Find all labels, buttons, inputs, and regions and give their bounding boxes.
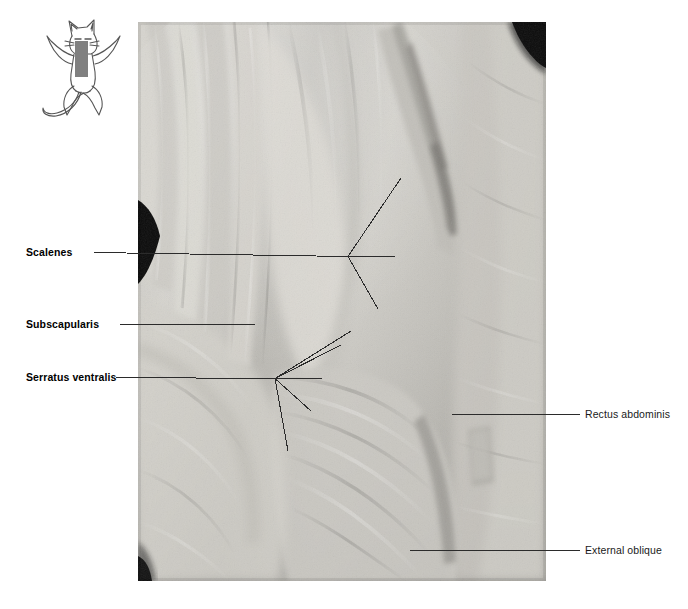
cat-body-diagram-icon <box>34 12 130 120</box>
cat-outline-svg <box>34 12 130 120</box>
highlight-region-rect <box>75 41 88 77</box>
label-scalenes: Scalenes <box>26 246 72 258</box>
dissection-photograph-image <box>138 22 546 581</box>
label-rectus-abdominis: Rectus abdominis <box>585 408 670 420</box>
label-subscapularis: Subscapularis <box>26 318 99 330</box>
anatomy-plate: Scalenes Subscapularis Serratus ventrali… <box>0 0 688 609</box>
dissection-photograph <box>138 22 546 581</box>
label-external-oblique: External oblique <box>585 544 662 556</box>
label-serratus-ventralis: Serratus ventralis <box>26 371 117 383</box>
